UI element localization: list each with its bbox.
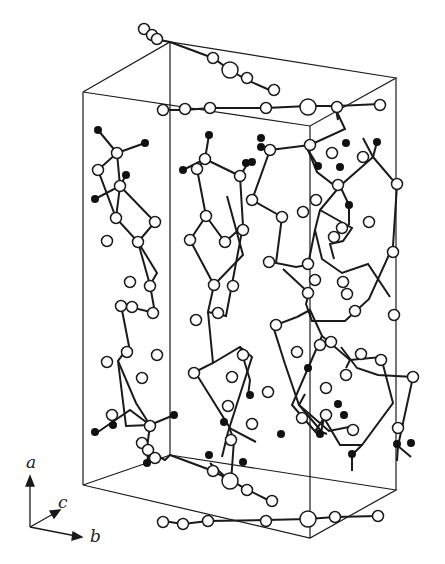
filled-atoms xyxy=(91,126,415,467)
axis-label-a: a xyxy=(26,452,36,472)
axis-label-b: b xyxy=(90,526,101,546)
open-atoms xyxy=(93,24,419,530)
axis-triad xyxy=(26,476,82,540)
crystal-structure-diagram xyxy=(0,0,445,564)
a-axis-arrow-icon xyxy=(26,476,34,486)
axis-label-c: c xyxy=(58,492,68,512)
b-axis-arrow-icon xyxy=(72,532,82,540)
